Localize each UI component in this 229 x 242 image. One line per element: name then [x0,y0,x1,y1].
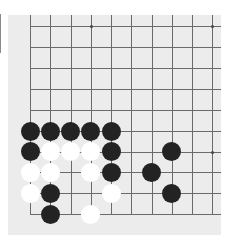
black-stone[interactable] [61,122,80,141]
grid-line-vertical [192,15,193,215]
left-edge-artifact [0,14,1,53]
white-stone[interactable] [102,184,121,203]
black-stone[interactable] [21,142,40,161]
black-stone[interactable] [41,184,60,203]
white-stone[interactable] [81,163,100,182]
star-point [211,151,214,154]
black-stone[interactable] [41,205,60,224]
black-stone[interactable] [21,122,40,141]
black-stone[interactable] [81,122,100,141]
grid-line-vertical [71,15,72,215]
white-stone[interactable] [21,184,40,203]
black-stone[interactable] [102,122,121,141]
grid-line-vertical [91,15,92,215]
white-stone[interactable] [81,205,100,224]
black-stone[interactable] [102,142,121,161]
black-stone[interactable] [142,163,161,182]
star-point [211,25,214,28]
white-stone[interactable] [41,163,60,182]
white-stone[interactable] [61,142,80,161]
white-stone[interactable] [21,163,40,182]
grid-line-vertical [212,15,213,215]
grid-line-vertical [131,15,132,215]
black-stone[interactable] [162,142,181,161]
grid-line-vertical [152,15,153,215]
white-stone[interactable] [41,142,60,161]
black-stone[interactable] [41,122,60,141]
star-point [90,25,93,28]
go-board[interactable] [8,15,221,235]
black-stone[interactable] [162,184,181,203]
black-stone[interactable] [102,163,121,182]
white-stone[interactable] [81,142,100,161]
